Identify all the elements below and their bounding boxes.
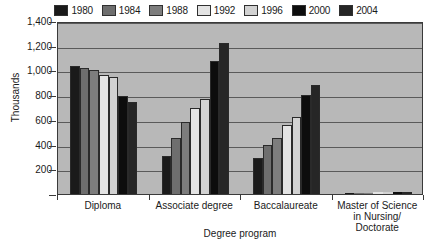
legend-item: 1996: [244, 5, 282, 16]
legend-swatch-icon: [197, 5, 211, 16]
bar: [181, 122, 191, 194]
bar-group: [162, 23, 229, 194]
legend-item: 1980: [54, 5, 92, 16]
bar: [373, 192, 383, 194]
legend-label: 2004: [356, 5, 377, 16]
bar: [70, 66, 80, 195]
bar: [200, 99, 210, 194]
legend-item: 1992: [197, 5, 235, 16]
plot-frame: [57, 22, 423, 195]
y-axis-tick-mark: [49, 71, 56, 72]
legend-label: 1988: [166, 5, 187, 16]
x-axis-category-label-line: Associate degree: [149, 200, 241, 211]
y-axis-tick-mark: [49, 170, 56, 171]
y-axis-tick-label: 200: [6, 165, 52, 175]
y-axis-tick-mark: [49, 22, 56, 23]
legend-item: 1988: [149, 5, 187, 16]
bar: [345, 193, 355, 194]
bar: [272, 138, 282, 194]
x-axis-category-label-line: Baccalaureate: [240, 200, 332, 211]
bar-group: [253, 23, 320, 194]
bar: [311, 85, 321, 194]
bar: [118, 96, 128, 194]
bar: [282, 125, 292, 194]
legend-label: 1996: [261, 5, 282, 16]
legend-swatch-icon: [292, 5, 306, 16]
legend-item: 2000: [292, 5, 330, 16]
chart-legend: 1980198419881992199620002004: [0, 2, 432, 18]
legend-swatch-icon: [149, 5, 163, 16]
bar: [393, 192, 403, 194]
bar: [128, 102, 138, 194]
legend-swatch-icon: [54, 5, 68, 16]
y-axis-tick-mark: [49, 96, 56, 97]
x-axis-category-label-line: in Nursing/: [332, 211, 424, 222]
bar: [219, 43, 229, 194]
y-axis-tick-label: 1,200: [6, 42, 52, 52]
legend-swatch-icon: [102, 5, 116, 16]
legend-swatch-icon: [339, 5, 353, 16]
bar: [171, 138, 181, 194]
bar: [253, 158, 263, 194]
legend-label: 2000: [309, 5, 330, 16]
x-axis-title: Degree program: [57, 228, 423, 239]
y-axis-tick-mark: [49, 47, 56, 48]
bar: [364, 193, 374, 194]
plot-area: [58, 23, 422, 194]
x-axis-category-label-line: Master of Science: [332, 200, 424, 211]
bar-chart: 1980198419881992199620002004 Thousands 2…: [0, 0, 432, 252]
x-axis-tick-mark-end: [423, 195, 424, 200]
x-axis-category-label: Associate degree: [149, 200, 241, 211]
bar: [80, 68, 90, 194]
bar: [402, 192, 412, 194]
bar: [263, 145, 273, 194]
bar: [292, 117, 302, 194]
y-axis-tick-label: 1,000: [6, 66, 52, 76]
y-axis-tick-label: 400: [6, 141, 52, 151]
bar-group: [345, 23, 412, 194]
bar: [162, 156, 172, 194]
bar: [99, 75, 109, 194]
y-axis-tick-label: 1,400: [6, 17, 52, 27]
y-axis-tick-label: 800: [6, 91, 52, 101]
legend-item: 2004: [339, 5, 377, 16]
bar: [210, 61, 220, 194]
legend-label: 1980: [71, 5, 92, 16]
bar: [354, 193, 364, 194]
y-axis-tick-label: 600: [6, 116, 52, 126]
bar: [109, 77, 119, 194]
bar: [383, 192, 393, 194]
bar-group: [70, 23, 137, 194]
bar: [190, 108, 200, 195]
legend-label: 1992: [214, 5, 235, 16]
legend-item: 1984: [102, 5, 140, 16]
x-axis-category-label: Diploma: [57, 200, 149, 211]
y-axis-tick-mark: [49, 121, 56, 122]
y-axis-tick-mark-zero: [49, 195, 56, 196]
legend-label: 1984: [119, 5, 140, 16]
bar: [89, 70, 99, 194]
legend-swatch-icon: [244, 5, 258, 16]
x-axis-category-label-line: Diploma: [57, 200, 149, 211]
bar: [301, 95, 311, 194]
x-axis-category-label: Baccalaureate: [240, 200, 332, 211]
y-axis-tick-mark: [49, 146, 56, 147]
